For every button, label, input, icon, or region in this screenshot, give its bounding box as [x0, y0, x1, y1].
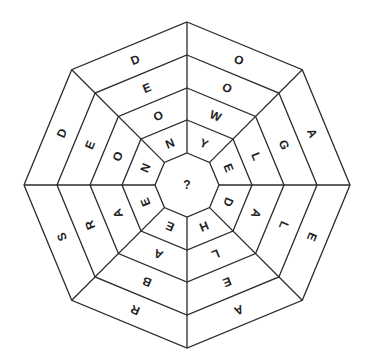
cell-letter: L — [276, 219, 292, 231]
cell-letter: D — [129, 52, 143, 68]
cell-letter: E — [221, 274, 234, 290]
cell-letter: E — [141, 80, 154, 96]
cell-letter: Y — [198, 136, 211, 152]
cell-letter: O — [151, 108, 165, 125]
cell-letter: O — [110, 149, 127, 163]
cell-letter: A — [304, 127, 320, 141]
cell-letter: E — [164, 218, 177, 234]
cell-letter: D — [54, 126, 70, 140]
cell-letter: A — [110, 207, 126, 221]
cell-letter: H — [197, 218, 210, 234]
cell-letter: E — [138, 196, 154, 209]
cell-letter: L — [210, 246, 222, 262]
cell-letter: O — [220, 80, 234, 97]
cell-letter: O — [232, 52, 246, 69]
cell-letter: E — [304, 230, 320, 243]
cell-letter: R — [82, 218, 98, 232]
cell-letter: E — [82, 139, 98, 152]
cell-letter: B — [140, 274, 154, 290]
cell-letter: A — [232, 302, 246, 318]
cell-letter: G — [276, 138, 293, 152]
cell-letter: L — [248, 150, 264, 162]
cell-letter: W — [208, 107, 224, 125]
center-question-mark: ? — [183, 178, 190, 192]
cell-letter: E — [220, 162, 236, 175]
octagon-word-puzzle: OOWYAGLEELADAELHRBAESRAEDEONDEON ? — [0, 0, 366, 361]
cell-letter: A — [151, 246, 165, 262]
cell-letter: A — [248, 207, 264, 221]
cell-letter: D — [220, 195, 236, 209]
cell-letter: R — [128, 302, 142, 318]
cell-letter: N — [137, 161, 153, 174]
cell-letter: S — [54, 230, 70, 243]
cell-letter: N — [163, 135, 176, 151]
